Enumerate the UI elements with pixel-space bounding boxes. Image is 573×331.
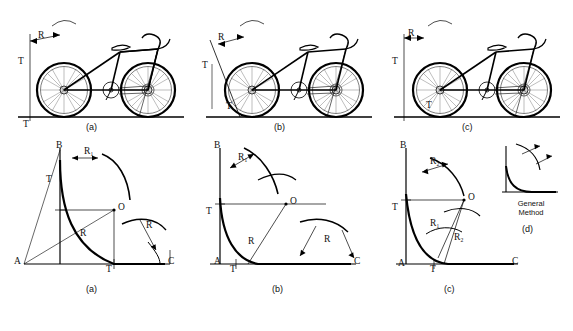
curve-diagram-b bbox=[196, 138, 382, 328]
general-method-line2: Method bbox=[498, 209, 564, 218]
caption-bot-c: (c) bbox=[444, 284, 455, 294]
label-C-bot-a: C bbox=[168, 256, 174, 266]
label-T-top-b-upper: T bbox=[202, 60, 208, 70]
label-R-top-a: R bbox=[38, 30, 44, 40]
label-T-bot-c-left: T bbox=[392, 202, 398, 212]
bottom-panel-a: B R₁ T O R R A T C (a) bbox=[10, 138, 196, 328]
label-T-top-c-lower: T bbox=[426, 100, 432, 110]
top-panel-c: R T T (c) bbox=[384, 4, 564, 134]
label-T-top-a-lower: T bbox=[23, 119, 29, 129]
top-panel-b: R T T (b) bbox=[196, 4, 376, 134]
label-R2-bot-c-inner: R₂ bbox=[454, 232, 464, 242]
label-A-bot-b: A bbox=[214, 256, 221, 266]
label-B-bot-a: B bbox=[56, 140, 62, 150]
caption-top-c: (c) bbox=[462, 122, 473, 132]
label-T-bot-a-bottom: T bbox=[106, 264, 112, 274]
label-T-bot-c-bottom: T bbox=[430, 264, 436, 274]
label-R-top-c: R bbox=[408, 28, 414, 38]
label-O-bot-a: O bbox=[118, 202, 125, 212]
curve-diagram-a bbox=[10, 138, 196, 328]
label-T-top-a-upper: T bbox=[18, 56, 24, 66]
bottom-panel-d: General Method (d) bbox=[492, 140, 568, 220]
label-R-bot-b-mid: R bbox=[248, 236, 254, 246]
caption-top-a: (a) bbox=[86, 122, 97, 132]
label-R-bot-a-mid: R bbox=[80, 228, 86, 238]
label-R1-bot-b: R₁ bbox=[238, 152, 248, 162]
label-R1-bot-a: R₁ bbox=[84, 146, 94, 156]
caption-bot-a: (a) bbox=[86, 284, 97, 294]
figure-canvas: R T T (a) bbox=[0, 0, 573, 331]
bicycle-diagram-c bbox=[384, 4, 564, 134]
label-R-bot-b-right: R bbox=[324, 234, 330, 244]
label-A-bot-c: A bbox=[398, 258, 405, 268]
label-R-top-b: R bbox=[218, 32, 224, 42]
label-R-bot-a-right: R bbox=[146, 220, 152, 230]
label-C-bot-c: C bbox=[512, 256, 518, 266]
bicycle-diagram-a bbox=[8, 4, 188, 134]
label-T-bot-b-bottom: T bbox=[230, 264, 236, 274]
label-T-top-c-upper: T bbox=[392, 56, 398, 66]
caption-bot-d: (d) bbox=[522, 224, 533, 234]
bicycle-diagram-b bbox=[196, 4, 376, 134]
label-C-bot-b: C bbox=[354, 256, 360, 266]
label-B-bot-b: B bbox=[214, 140, 220, 150]
general-method-title: General Method bbox=[498, 200, 564, 217]
label-T-bot-b-left: T bbox=[206, 206, 212, 216]
label-T-bot-a-left: T bbox=[46, 174, 52, 184]
label-R1-bot-c: R₁ bbox=[430, 218, 440, 228]
bottom-panel-b: B R₁ O T R R A T C (b) bbox=[196, 138, 382, 328]
label-O-bot-b: O bbox=[290, 196, 297, 206]
label-A-bot-a: A bbox=[14, 256, 21, 266]
caption-top-b: (b) bbox=[274, 122, 285, 132]
label-R2-bot-c: R₂ bbox=[430, 156, 440, 166]
label-O-bot-c: O bbox=[468, 192, 475, 202]
label-T-top-b-lower: T bbox=[226, 101, 232, 111]
label-B-bot-c: B bbox=[400, 140, 406, 150]
caption-bot-b: (b) bbox=[272, 284, 283, 294]
top-panel-a: R T T (a) bbox=[8, 4, 188, 134]
